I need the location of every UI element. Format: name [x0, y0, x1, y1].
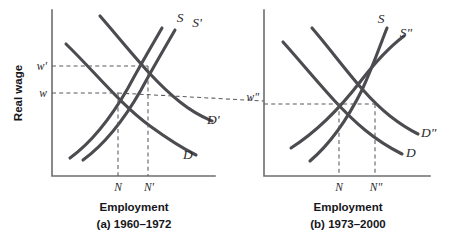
panel-b-x-axis-title: Employment: [313, 201, 382, 213]
panel-b-label-D-dprime: D": [420, 125, 437, 140]
panel-a-tick-w-prime: w': [37, 60, 48, 72]
panel-a-label-S: S: [177, 10, 184, 25]
panel-b-tick-N-dprime: N": [369, 181, 383, 193]
panel-b-caption: (b) 1973–2000: [310, 218, 385, 230]
cross-panel-wage-connector: [118, 93, 264, 101]
panel-b-demand-curve-D: [283, 42, 402, 154]
panel-a-label-D: D: [182, 147, 193, 162]
panel-a-tick-N-prime: N': [143, 181, 155, 193]
panel-b-label-S-dprime: S": [400, 25, 413, 40]
panel-a-tick-w: w: [39, 87, 47, 99]
panel-b-tick-w-dprime: w": [247, 91, 260, 103]
panel-b-label-D: D: [405, 145, 416, 160]
panel-b-supply-curve-S-dprime: [291, 36, 404, 148]
panel-b: S S" D" D w" N N" Employment (b) 1973–20…: [247, 10, 437, 230]
panel-b-tick-N: N: [334, 181, 344, 193]
panel-a-label-S-prime: S': [192, 15, 203, 30]
labor-market-figure: S S' D' D w' w N N' Employment (a) 1960–…: [0, 0, 457, 243]
panel-a-label-D-prime: D': [206, 112, 221, 127]
panel-a-caption: (a) 1960–1972: [97, 218, 172, 230]
panel-a-y-axis-title: Real wage: [12, 65, 24, 121]
panel-a: S S' D' D w' w N N' Employment (a) 1960–…: [12, 10, 264, 230]
panel-a-tick-N: N: [113, 181, 123, 193]
panel-b-label-S: S: [378, 11, 385, 26]
panel-a-x-axis-title: Employment: [99, 201, 168, 213]
figure-root: S S' D' D w' w N N' Employment (a) 1960–…: [0, 0, 457, 243]
